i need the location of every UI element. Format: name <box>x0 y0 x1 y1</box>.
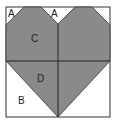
label-d: D <box>37 73 44 84</box>
label-a-left: A <box>8 8 15 19</box>
label-c: C <box>31 33 38 44</box>
heart-block-diagram: A A C D B <box>0 0 121 125</box>
label-b: B <box>18 95 25 106</box>
label-a-center: A <box>51 8 58 19</box>
